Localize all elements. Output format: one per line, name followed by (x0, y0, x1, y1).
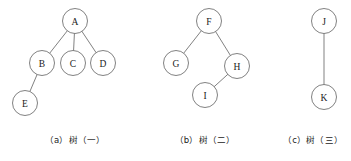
node-label-g: G (173, 59, 180, 69)
tree-node-c: C (61, 51, 86, 76)
tree-edge-a-b (50, 31, 68, 53)
node-label-h: H (234, 62, 241, 72)
node-label-j: J (322, 17, 326, 27)
node-label-a: A (72, 17, 79, 27)
tree-edge-a-c (74, 33, 75, 50)
tree-node-g: G (164, 51, 189, 76)
tree-edge-f-h (216, 32, 231, 56)
tree-node-j: J (312, 9, 337, 34)
tree-node-i: I (193, 83, 218, 108)
node-label-i: I (203, 91, 206, 101)
figure-root: ABCDEFGHIJK （a）树（一）（b）树（二）（c）树（三） (0, 0, 351, 161)
tree-node-a: A (63, 9, 88, 34)
tree-node-k: K (312, 85, 337, 110)
tree-node-f: F (197, 9, 222, 34)
tree-edge-a-d (82, 31, 96, 52)
caption-tree-c: （c）树（三） (283, 133, 343, 145)
nodes-layer: ABCDEFGHIJK (13, 9, 337, 116)
tree-node-b: B (30, 51, 55, 76)
node-label-d: D (100, 59, 107, 69)
node-label-b: B (39, 59, 45, 69)
tree-node-d: D (91, 51, 116, 76)
tree-node-e: E (13, 91, 38, 116)
node-label-k: K (321, 93, 328, 103)
node-label-c: C (70, 59, 76, 69)
caption-tree-a: （a）树（一） (45, 133, 106, 145)
tree-edge-f-g (184, 31, 202, 53)
tree-edge-h-i (214, 74, 227, 86)
node-label-e: E (22, 99, 28, 109)
caption-tree-b: （b）树（二） (175, 133, 236, 145)
tree-node-h: H (225, 54, 250, 79)
tree-edge-b-e (30, 75, 37, 92)
node-label-f: F (206, 17, 211, 27)
